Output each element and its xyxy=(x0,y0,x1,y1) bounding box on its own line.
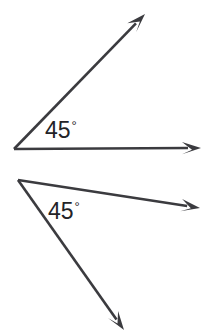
ray-bottom-upper xyxy=(18,180,200,211)
degree-symbol-icon: ° xyxy=(72,118,77,133)
degree-symbol-icon: ° xyxy=(75,199,80,214)
ray-bottom-lower-arrowhead xyxy=(108,311,124,330)
angle-top-group xyxy=(14,14,201,154)
angle-label-top: 45° xyxy=(45,118,76,142)
angles-diagram-svg xyxy=(0,0,219,332)
geometry-figure-canvas: 45° 45° xyxy=(0,0,219,332)
angle-bottom-group xyxy=(18,180,200,330)
ray-top-horizontal-line xyxy=(14,148,188,149)
ray-top-horizontal xyxy=(14,142,201,154)
ray-bottom-upper-line xyxy=(18,180,187,206)
angle-label-bottom-value: 45 xyxy=(48,198,74,224)
ray-top-upper xyxy=(14,14,145,149)
angle-label-bottom: 45° xyxy=(48,199,79,223)
angle-label-top-value: 45 xyxy=(45,117,71,143)
